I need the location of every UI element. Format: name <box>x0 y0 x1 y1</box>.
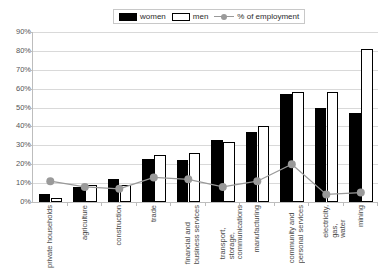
y-axis-labels: 0%10%20%30%40%50%60%70%80%90% <box>0 32 31 202</box>
black-filled-square-icon <box>119 13 137 21</box>
legend-item-women: women <box>119 13 166 21</box>
x-axis-category-label: manufacturing <box>253 205 262 253</box>
x-axis-category-label: construction <box>115 205 124 245</box>
x-axis-category-label: electricity, gas, water <box>322 205 348 238</box>
employment-line-series <box>33 32 378 202</box>
chart-legend: women men % of employment <box>113 9 305 24</box>
employment-line-path <box>50 164 361 194</box>
employment-line-marker <box>115 185 123 193</box>
x-axis-category-label: private households <box>46 205 55 268</box>
plot-area <box>33 32 378 202</box>
employment-line-marker <box>81 183 89 191</box>
gray-line-marker-icon <box>214 13 234 21</box>
employment-bar-chart: women men % of employment 0%10%20%30%40%… <box>0 0 383 274</box>
employment-line-marker <box>150 173 158 181</box>
employment-line-marker <box>219 183 227 191</box>
x-axis-category-label: community and personal services <box>288 205 305 263</box>
employment-line-marker <box>357 189 365 197</box>
legend-item-employment: % of employment <box>214 13 299 21</box>
x-axis-labels: private householdsagricultureconstructio… <box>33 205 378 274</box>
x-axis-category-label: transport, storage, communications <box>219 205 245 259</box>
legend-label-men: men <box>193 13 209 21</box>
employment-line-marker <box>253 177 261 185</box>
employment-line-marker <box>322 190 330 198</box>
employment-line-marker <box>184 175 192 183</box>
x-axis-category-label: financial and business services <box>184 205 201 264</box>
white-outlined-square-icon <box>172 13 190 21</box>
employment-line-marker <box>46 177 54 185</box>
x-axis-category-label: mining <box>357 205 366 227</box>
legend-label-women: women <box>140 13 166 21</box>
legend-item-men: men <box>172 13 209 21</box>
x-axis-category-label: agriculture <box>81 205 90 240</box>
x-axis-category-label: trade <box>150 205 159 222</box>
employment-line-marker <box>288 160 296 168</box>
legend-label-employment: % of employment <box>237 13 299 21</box>
